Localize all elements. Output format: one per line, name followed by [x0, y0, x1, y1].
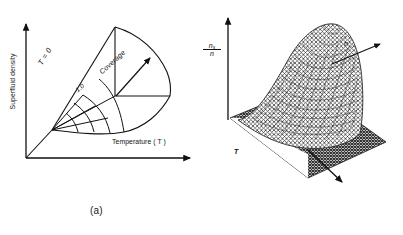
- panel-a-diagram: [0, 0, 200, 200]
- panel-a-isotherm-arc-1: [66, 113, 78, 132]
- panel-b-surface-plot: [190, 0, 403, 200]
- panel-a-x-axis-label: Temperature ( T ): [112, 138, 166, 145]
- coverage-arrow-icon: [116, 58, 150, 96]
- panel-b-y-axis-label: ns n: [203, 42, 221, 57]
- panel-a-fan-line-4: [52, 96, 115, 130]
- panel-a: Superfluid density Temperature ( T ) T =…: [0, 0, 200, 235]
- panel-b: ns n n T (b): [190, 0, 403, 235]
- panel-a-caption: (a): [90, 205, 103, 216]
- panel-b-y-axis-denominator: n: [203, 50, 221, 57]
- panel-b-density-axis-label: n: [344, 39, 348, 48]
- panel-a-y-axis-label: Superfluid density: [9, 48, 16, 116]
- panel-b-y-axis-numerator: ns: [203, 42, 221, 50]
- panel-b-y-axis-numerator-subscript: s: [213, 44, 216, 50]
- panel-a-t-zero-boundary: [52, 27, 115, 130]
- panel-a-outer-arc: [115, 27, 171, 96]
- figure-root: Superfluid density Temperature ( T ) T =…: [0, 0, 403, 235]
- panel-b-temperature-axis-label: T: [234, 148, 238, 155]
- panel-a-origin-tail: [26, 130, 52, 158]
- panel-a-isotherm-arc-4: [99, 79, 124, 132]
